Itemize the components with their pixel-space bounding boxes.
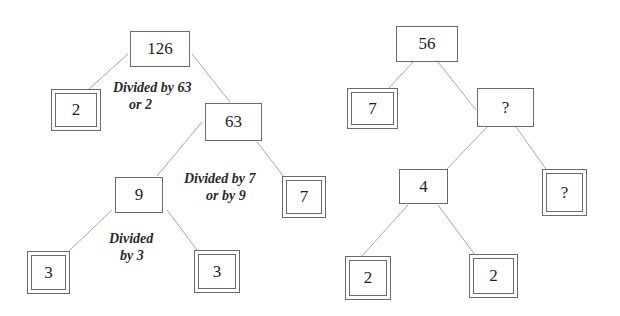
factor-trees-diagram: 1262639733Divided by 63or 2Divided by 7o… bbox=[0, 0, 620, 316]
node-inner-border: 7 bbox=[286, 180, 322, 214]
node-value: 2 bbox=[489, 266, 498, 286]
node-value: ? bbox=[561, 183, 569, 203]
prime-node-n2a: 2 bbox=[51, 89, 101, 131]
node-value: ? bbox=[502, 98, 510, 118]
prime-node-n2b: 2 bbox=[345, 256, 391, 300]
node-value: 126 bbox=[147, 39, 173, 59]
division-annotation-a3: Dividedby 3 bbox=[109, 230, 153, 264]
annotation-line: Divided bbox=[109, 230, 153, 247]
node-inner-border: 3 bbox=[198, 254, 236, 289]
node-value: 7 bbox=[300, 187, 309, 207]
edge-n56-nq1 bbox=[438, 62, 476, 110]
node-inner-border: 7 bbox=[351, 92, 394, 125]
node-inner-border: ? bbox=[546, 173, 583, 212]
division-annotation-a2: Divided by 7or by 9 bbox=[184, 170, 256, 204]
composite-node-nq1: ? bbox=[477, 88, 534, 127]
edge-n126-n63 bbox=[192, 54, 230, 102]
prime-node-n2c: 2 bbox=[469, 254, 518, 298]
edge-n56-n7b bbox=[388, 62, 413, 89]
prime-node-n7a: 7 bbox=[282, 176, 326, 218]
composite-node-n9: 9 bbox=[115, 177, 163, 213]
edge-n9-n3a bbox=[68, 210, 112, 252]
annotation-line: by 3 bbox=[109, 247, 153, 264]
edge-nq1-n4 bbox=[446, 127, 487, 170]
prime-node-n3b: 3 bbox=[194, 250, 240, 293]
annotation-line: Divided by 63 bbox=[113, 79, 192, 96]
edge-n4-n2c bbox=[438, 205, 475, 255]
node-inner-border: 2 bbox=[55, 93, 97, 127]
annotation-line: or by 9 bbox=[184, 187, 256, 204]
node-inner-border: 2 bbox=[349, 260, 387, 296]
node-value: 4 bbox=[419, 177, 428, 197]
node-value: 56 bbox=[419, 34, 436, 54]
composite-node-n4: 4 bbox=[399, 169, 448, 204]
node-value: 7 bbox=[368, 99, 377, 119]
edge-n63-n9 bbox=[157, 122, 202, 176]
node-value: 3 bbox=[213, 262, 222, 282]
node-value: 9 bbox=[135, 185, 144, 205]
node-value: 63 bbox=[225, 112, 242, 132]
composite-node-n56: 56 bbox=[396, 26, 458, 62]
edge-n4-n2b bbox=[362, 205, 408, 256]
prime-node-n3a: 3 bbox=[27, 251, 70, 294]
node-inner-border: 2 bbox=[473, 258, 514, 294]
composite-node-n63: 63 bbox=[205, 103, 262, 141]
composite-node-n126: 126 bbox=[130, 31, 190, 67]
connector-lines bbox=[0, 0, 620, 316]
edge-n9-n3b bbox=[167, 210, 197, 250]
edge-nq1-nq2 bbox=[516, 127, 546, 169]
node-value: 2 bbox=[72, 100, 81, 120]
node-value: 3 bbox=[44, 263, 53, 283]
annotation-line: Divided by 7 bbox=[184, 170, 256, 187]
prime-node-n7b: 7 bbox=[347, 88, 398, 129]
node-value: 2 bbox=[364, 268, 373, 288]
prime-node-nq2: ? bbox=[542, 169, 587, 216]
annotation-line: or 2 bbox=[113, 96, 192, 113]
edge-n63-n7a bbox=[257, 142, 284, 177]
node-inner-border: 3 bbox=[31, 255, 66, 290]
division-annotation-a1: Divided by 63or 2 bbox=[113, 79, 192, 113]
